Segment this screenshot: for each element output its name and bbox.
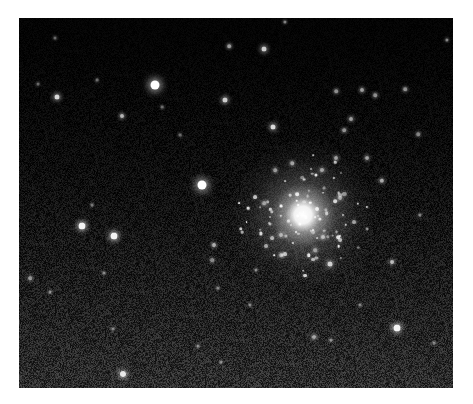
sky-background <box>19 18 453 388</box>
cluster-star <box>284 252 288 256</box>
star <box>96 79 99 82</box>
star-cluster-image <box>19 18 453 388</box>
cluster-star <box>352 220 356 224</box>
star <box>416 132 420 136</box>
cluster-star <box>325 211 329 215</box>
cluster-star <box>338 238 342 242</box>
cluster-star <box>303 274 307 278</box>
star <box>279 233 283 237</box>
star <box>320 168 324 172</box>
star <box>273 168 277 172</box>
star <box>91 204 94 207</box>
star <box>290 161 294 165</box>
cluster-star <box>259 229 261 231</box>
star <box>338 196 342 200</box>
star <box>433 342 436 345</box>
star <box>349 117 353 121</box>
star <box>37 83 40 86</box>
cluster-star <box>307 253 311 257</box>
cluster-star <box>316 237 318 239</box>
cluster-star <box>292 242 294 244</box>
cluster-star <box>303 212 305 214</box>
cluster-star <box>365 228 368 231</box>
star <box>212 243 216 247</box>
cluster-star <box>295 192 299 196</box>
cluster-star <box>310 168 312 170</box>
star <box>403 87 407 91</box>
cluster-star <box>322 229 325 232</box>
cluster-star <box>335 231 338 234</box>
star <box>151 81 160 90</box>
cluster-star <box>238 202 240 204</box>
cluster-star <box>334 161 337 164</box>
star <box>360 88 364 92</box>
cluster-star <box>306 195 309 198</box>
star <box>262 47 267 52</box>
star <box>373 93 377 97</box>
star <box>328 262 333 267</box>
cluster-star <box>246 221 248 223</box>
star <box>312 335 316 339</box>
star <box>262 201 266 205</box>
star <box>179 134 182 137</box>
star <box>334 89 338 93</box>
cluster-star <box>314 216 316 218</box>
star <box>55 95 60 100</box>
star <box>342 128 346 132</box>
cluster-star <box>264 244 268 248</box>
star <box>120 114 124 118</box>
star <box>334 156 338 160</box>
star <box>223 98 228 103</box>
star <box>111 233 118 240</box>
star <box>28 276 32 280</box>
cluster-star <box>259 206 261 208</box>
star <box>281 254 284 257</box>
cluster-star <box>284 180 286 182</box>
cluster-star <box>298 212 301 215</box>
star <box>210 258 214 262</box>
star <box>394 325 401 332</box>
star <box>220 361 223 364</box>
cluster-star <box>342 214 344 216</box>
star <box>79 223 86 230</box>
star <box>198 181 207 190</box>
star <box>112 328 115 331</box>
cluster-star <box>313 155 315 157</box>
cluster-star <box>302 270 304 272</box>
star <box>161 106 164 109</box>
star <box>271 125 276 130</box>
cluster-star <box>315 207 319 211</box>
cluster-star <box>273 254 275 256</box>
star <box>321 235 325 239</box>
cluster-star <box>297 205 299 207</box>
star <box>390 260 394 264</box>
cluster-star <box>300 176 304 180</box>
cluster-star <box>345 223 348 226</box>
star <box>313 248 317 252</box>
cluster-star <box>322 192 324 194</box>
cluster-star <box>289 194 292 197</box>
cluster-star <box>337 245 340 248</box>
cluster-star <box>302 200 306 204</box>
star <box>120 371 126 377</box>
cluster-star <box>331 234 334 237</box>
cluster-star <box>312 229 314 231</box>
cluster-star <box>247 207 250 210</box>
star <box>227 44 231 48</box>
cluster-star <box>270 236 274 240</box>
cluster-star <box>266 200 270 204</box>
star <box>365 156 369 160</box>
cluster-star <box>333 199 337 203</box>
star <box>54 37 57 40</box>
cluster-star <box>269 216 271 218</box>
cluster-star <box>357 246 360 249</box>
cluster-star <box>253 195 257 199</box>
star <box>249 304 252 307</box>
cluster-star <box>241 231 244 234</box>
cluster-star <box>323 187 326 190</box>
cluster-star <box>317 215 319 217</box>
cluster-star <box>279 205 282 208</box>
